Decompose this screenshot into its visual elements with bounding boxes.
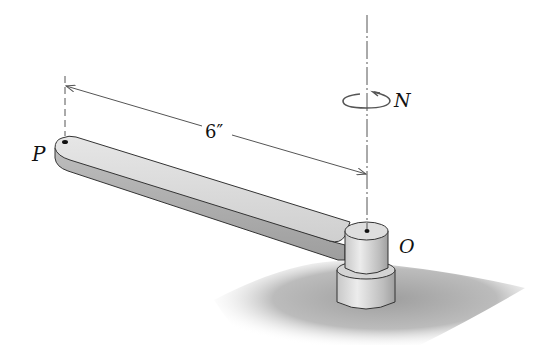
pivot-hole-o bbox=[365, 229, 370, 233]
dimension-label: 6″ bbox=[205, 121, 223, 142]
hub-upper bbox=[345, 222, 388, 274]
crank-arm bbox=[55, 136, 350, 260]
pin-hole-p bbox=[62, 140, 68, 144]
arm-top-face bbox=[55, 136, 350, 242]
dimension-line bbox=[66, 86, 202, 126]
label-p: P bbox=[31, 142, 46, 166]
label-n: N bbox=[393, 89, 412, 111]
crank-arm-diagram: N P O 6″ bbox=[0, 0, 543, 345]
label-o: O bbox=[399, 235, 415, 257]
dimension-line bbox=[232, 135, 366, 174]
